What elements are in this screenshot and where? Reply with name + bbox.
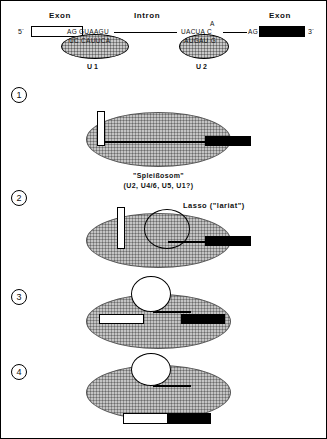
step-4-exon-right	[167, 413, 211, 424]
five-prime-label: 5´	[18, 28, 24, 35]
step-1-caption-line2: (U2, U4/6, U5, U1?)	[71, 181, 246, 190]
u2-seq: AUGAU G	[184, 38, 216, 45]
step-2-exon-left	[117, 207, 125, 249]
step-1-number: 1	[11, 87, 27, 103]
step-3-lariat-loop	[131, 276, 171, 312]
step-2-intron-tail	[168, 241, 210, 243]
three-splice-site-seq: AG	[248, 29, 258, 36]
step-3-exon-left	[99, 314, 144, 324]
step-2-exon-right	[205, 236, 251, 246]
intron-line-right	[223, 32, 247, 33]
step-4-intron-tail	[153, 385, 191, 387]
intron-line-left	[114, 32, 177, 33]
step-3-number: 3	[11, 289, 27, 305]
step-2-number: 2	[11, 190, 27, 206]
u1-label: U 1	[87, 63, 98, 70]
three-prime-label: 3´	[308, 28, 314, 35]
step-4-number: 4	[11, 364, 27, 380]
step-1-exon-left	[97, 111, 105, 146]
step-4-lariat-loop	[131, 353, 171, 386]
step-1-exon-right	[205, 136, 251, 146]
five-splice-site-seq: AG	[67, 29, 77, 36]
step-1-intron-line	[105, 141, 209, 143]
step-3-intron-tail	[153, 311, 191, 313]
step-2-lariat-callout: Lasso ("lariat")	[183, 202, 245, 210]
step-4-exon-left	[123, 413, 168, 424]
exon-left-label: Exon	[49, 12, 71, 20]
u1-seq: UC CAUUCA	[69, 38, 110, 45]
step-3-exon-right	[181, 314, 225, 324]
step-1-caption-line1: "Spleißosom"	[86, 171, 231, 180]
branch-point-a: A	[210, 21, 215, 28]
splicing-figure: Exon Intron Exon 5´ AG GUAAGU UC CAUUCA …	[0, 0, 327, 439]
exon-right-box	[259, 26, 305, 37]
exon-right-label: Exon	[269, 12, 291, 20]
u2-label: U 2	[196, 63, 207, 70]
step-2-lariat-loop	[144, 209, 190, 249]
intron-label: Intron	[134, 12, 160, 20]
